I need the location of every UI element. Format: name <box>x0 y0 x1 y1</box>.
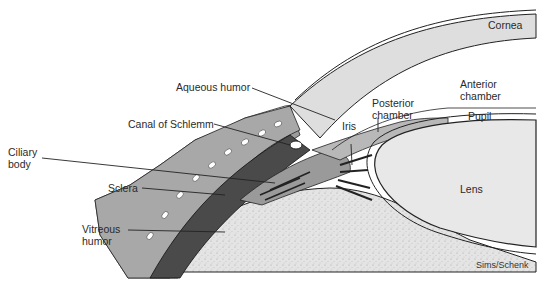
label-vitreous-humor: Vitreous humor <box>82 223 120 247</box>
label-iris: Iris <box>342 120 356 132</box>
label-canal-of-schlemm: Canal of Schlemm <box>128 118 214 130</box>
label-posterior-chamber: Posterior chamber <box>372 97 414 121</box>
canal-of-schlemm-shape <box>290 141 302 149</box>
label-sclera: Sclera <box>108 182 138 194</box>
label-lens: Lens <box>460 183 483 195</box>
label-ciliary-body: Ciliary body <box>8 146 37 170</box>
image-credit: Sims/Schenk <box>476 259 529 271</box>
label-anterior-chamber: Anterior chamber <box>460 78 501 102</box>
label-cornea: Cornea <box>488 19 522 31</box>
label-pupil: Pupil <box>468 110 491 122</box>
eye-anatomy-diagram: Cornea Aqueous humor Canal of Schlemm An… <box>0 0 541 282</box>
label-aqueous-humor: Aqueous humor <box>176 81 250 93</box>
